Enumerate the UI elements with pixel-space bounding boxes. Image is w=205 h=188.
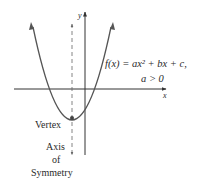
axis-of-symmetry-label-line1: Axis	[46, 141, 65, 152]
parabola-diagram: x y f(x) = ax² + bx + c, a > 0 Vertex Ax…	[0, 0, 205, 188]
parabola-right-arrow-icon	[110, 22, 115, 30]
parabola-left-arrow-icon	[29, 22, 34, 30]
vertex-label: Vertex	[35, 119, 61, 130]
vertex-point	[70, 116, 74, 120]
function-label: f(x) = ax² + bx + c,	[105, 58, 187, 70]
x-axis-label: x	[162, 91, 167, 100]
axis-of-symmetry-label-line3: Symmetry	[31, 167, 73, 178]
y-axis-label: y	[77, 11, 82, 20]
condition-label: a > 0	[141, 73, 165, 84]
axis-of-symmetry-label-line2: of	[52, 154, 61, 165]
